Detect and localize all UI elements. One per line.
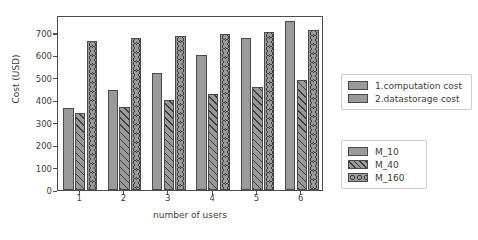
bar-M_160-users-3 — [175, 36, 186, 190]
y-axis-tick-labels: 0100200300400500600700 — [26, 16, 52, 191]
legend-swatch-icon — [348, 147, 368, 156]
bar-M_40-users-4 — [208, 94, 219, 190]
legend-swatch-icon — [348, 81, 368, 90]
bar-M_160-users-1 — [87, 41, 98, 190]
bar-M_40-users-3 — [164, 100, 175, 190]
legend-entry: 1.computation cost — [348, 79, 465, 92]
bar-M_40-users-6 — [297, 80, 308, 190]
x-tick-label: 3 — [165, 193, 170, 203]
x-tick-label: 2 — [121, 193, 126, 203]
legend-label: 1.computation cost — [375, 81, 462, 91]
cost-type-legend: 1.computation cost2.datastorage cost — [341, 74, 472, 110]
y-axis-label: Cost (USD) — [11, 39, 21, 119]
legend-entry: 2.datastorage cost — [348, 92, 465, 105]
y-tick-label: 100 — [36, 164, 52, 174]
x-tick-label: 1 — [76, 193, 81, 203]
y-tick-label: 600 — [36, 51, 52, 61]
legend-label: M_160 — [375, 173, 404, 183]
x-tick-label: 5 — [254, 193, 259, 203]
bar-M_10-users-2 — [108, 90, 119, 190]
legend-entry: M_10 — [348, 145, 420, 158]
bar-M_10-users-4 — [196, 55, 207, 190]
bar-M_160-users-2 — [131, 38, 142, 190]
bar-M_10-users-1 — [63, 108, 74, 190]
x-axis-label: number of users — [57, 210, 323, 220]
bar-M_10-users-6 — [285, 21, 296, 190]
y-tick-label: 0 — [47, 186, 52, 196]
bar-M_40-users-1 — [75, 113, 86, 190]
bar-M_40-users-5 — [252, 87, 263, 190]
legend-swatch-icon — [348, 173, 368, 182]
y-tick-label: 400 — [36, 96, 52, 106]
bar-M_160-users-5 — [264, 32, 275, 190]
y-tick-label: 300 — [36, 119, 52, 129]
legend-label: M_40 — [375, 160, 399, 170]
legend-label: M_10 — [375, 147, 399, 157]
bar-chart-figure: Cost (USD) 0100200300400500600700 123456… — [0, 0, 478, 240]
y-tick-label: 200 — [36, 141, 52, 151]
legend-entry: M_40 — [348, 158, 420, 171]
plot-area — [57, 16, 323, 191]
bar-M_160-users-6 — [308, 30, 319, 190]
bar-M_160-users-4 — [220, 34, 231, 190]
bar-M_10-users-3 — [152, 73, 163, 190]
legend-swatch-icon — [348, 94, 368, 103]
legend-swatch-icon — [348, 160, 368, 169]
bar-M_10-users-5 — [241, 38, 252, 190]
y-tick-label: 500 — [36, 74, 52, 84]
x-axis-tick-labels: 123456 — [57, 193, 323, 207]
bars-layer — [58, 17, 322, 190]
y-tick-label: 700 — [36, 29, 52, 39]
x-tick-label: 6 — [298, 193, 303, 203]
x-tick-label: 4 — [209, 193, 214, 203]
series-legend: M_10M_40M_160 — [341, 140, 427, 189]
legend-entry: M_160 — [348, 171, 420, 184]
legend-label: 2.datastorage cost — [375, 94, 460, 104]
bar-M_40-users-2 — [119, 107, 130, 190]
